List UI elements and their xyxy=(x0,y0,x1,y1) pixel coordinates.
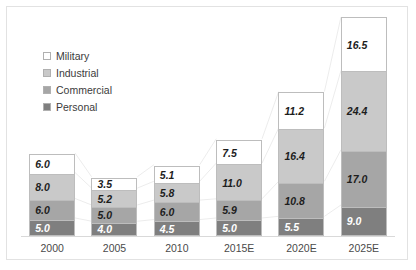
bar-segment-industrial[interactable]: 8.0 xyxy=(29,174,75,200)
bar-segment-value-label: 7.5 xyxy=(217,148,237,158)
x-axis-line xyxy=(21,236,395,237)
bar-segment-commercial[interactable]: 10.8 xyxy=(278,183,324,218)
legend-swatch-personal-icon xyxy=(43,103,51,111)
x-tick-2005: 2005 xyxy=(83,240,145,260)
legend-swatch-industrial-icon xyxy=(43,69,51,77)
bar-segment-industrial[interactable]: 11.0 xyxy=(216,164,262,200)
bar-segment-value-label: 5.9 xyxy=(217,205,237,215)
x-tick-2000: 2000 xyxy=(21,240,83,260)
bar-stack: 16.524.417.09.0 xyxy=(341,17,387,236)
bar-segment-value-label: 6.0 xyxy=(155,207,175,217)
bar-segment-value-label: 24.4 xyxy=(342,106,367,116)
bar-segment-value-label: 6.0 xyxy=(30,205,50,215)
bar-segment-military[interactable]: 16.5 xyxy=(341,17,387,71)
legend-item-military[interactable]: Military xyxy=(43,51,112,61)
bar-segment-value-label: 5.0 xyxy=(92,210,112,220)
bar-segment-personal[interactable]: 4.0 xyxy=(91,223,137,236)
bar-segment-industrial[interactable]: 5.2 xyxy=(91,190,137,207)
bar-segment-commercial[interactable]: 6.0 xyxy=(154,202,200,222)
bar-column-2020E[interactable]: 11.216.410.85.5 xyxy=(270,17,332,236)
bar-segment-personal[interactable]: 5.0 xyxy=(216,220,262,236)
x-tick-2020E: 2020E xyxy=(270,240,332,260)
bar-column-2010[interactable]: 5.15.86.04.5 xyxy=(146,17,208,236)
bar-segment-value-label: 10.8 xyxy=(279,196,304,206)
bar-segment-value-label: 5.8 xyxy=(155,188,175,198)
bar-column-2025E[interactable]: 16.524.417.09.0 xyxy=(333,17,395,236)
bar-segment-military[interactable]: 7.5 xyxy=(216,140,262,165)
chart-frame: MilitaryIndustrialCommercialPersonal 6.0… xyxy=(6,6,408,260)
legend-item-label: Industrial xyxy=(56,68,99,78)
chart-legend: MilitaryIndustrialCommercialPersonal xyxy=(43,51,112,112)
legend-item-label: Military xyxy=(56,51,89,61)
bar-column-2005[interactable]: 3.55.25.04.0 xyxy=(83,17,145,236)
bar-segment-value-label: 4.0 xyxy=(92,224,112,234)
bar-segment-value-label: 3.5 xyxy=(92,179,112,189)
legend-item-label: Personal xyxy=(56,102,97,112)
legend-item-label: Commercial xyxy=(56,85,112,95)
bar-segment-value-label: 8.0 xyxy=(30,182,50,192)
bar-segment-military[interactable]: 11.2 xyxy=(278,92,324,129)
bar-segment-value-label: 5.2 xyxy=(92,194,112,204)
bar-segment-value-label: 11.0 xyxy=(217,178,242,188)
bar-segment-value-label: 11.2 xyxy=(279,106,304,116)
bar-segment-military[interactable]: 6.0 xyxy=(29,154,75,174)
bar-segment-military[interactable]: 3.5 xyxy=(91,178,137,189)
x-tick-2010: 2010 xyxy=(146,240,208,260)
bar-stack: 6.08.06.05.0 xyxy=(29,154,75,236)
legend-swatch-military-icon xyxy=(43,52,51,60)
bar-segment-value-label: 16.5 xyxy=(342,40,367,50)
bar-segment-value-label: 5.1 xyxy=(155,170,175,180)
bar-stack: 7.511.05.95.0 xyxy=(216,140,262,236)
bar-segment-industrial[interactable]: 24.4 xyxy=(341,71,387,151)
bar-segment-commercial[interactable]: 17.0 xyxy=(341,151,387,207)
bar-segment-commercial[interactable]: 5.0 xyxy=(91,207,137,223)
bar-segment-industrial[interactable]: 5.8 xyxy=(154,183,200,202)
bar-segment-industrial[interactable]: 16.4 xyxy=(278,129,324,183)
bar-segment-value-label: 9.0 xyxy=(342,216,362,226)
legend-item-commercial[interactable]: Commercial xyxy=(43,85,112,95)
bar-segment-personal[interactable]: 9.0 xyxy=(341,207,387,236)
bar-stack: 11.216.410.85.5 xyxy=(278,92,324,236)
bar-segment-commercial[interactable]: 6.0 xyxy=(29,200,75,220)
x-axis-tick-labels: 2000200520102015E2020E2025E xyxy=(21,240,395,260)
x-tick-2025E: 2025E xyxy=(333,240,395,260)
bar-column-2015E[interactable]: 7.511.05.95.0 xyxy=(208,17,270,236)
bar-stack: 5.15.86.04.5 xyxy=(154,166,200,236)
legend-item-personal[interactable]: Personal xyxy=(43,102,112,112)
legend-swatch-commercial-icon xyxy=(43,86,51,94)
plot-area: MilitaryIndustrialCommercialPersonal 6.0… xyxy=(7,7,407,259)
x-tick-2015E: 2015E xyxy=(208,240,270,260)
bar-segment-personal[interactable]: 5.0 xyxy=(29,220,75,236)
bar-segment-value-label: 16.4 xyxy=(279,151,304,161)
bar-segment-value-label: 4.5 xyxy=(155,224,175,234)
legend-item-industrial[interactable]: Industrial xyxy=(43,68,112,78)
bar-stack: 3.55.25.04.0 xyxy=(91,178,137,236)
bar-segment-personal[interactable]: 4.5 xyxy=(154,221,200,236)
bar-segment-value-label: 5.0 xyxy=(217,223,237,233)
bar-segment-value-label: 17.0 xyxy=(342,174,367,184)
bar-segment-personal[interactable]: 5.5 xyxy=(278,218,324,236)
bar-segment-value-label: 5.0 xyxy=(30,223,50,233)
bar-segment-commercial[interactable]: 5.9 xyxy=(216,200,262,219)
bar-segment-value-label: 5.5 xyxy=(279,222,299,232)
bar-segment-military[interactable]: 5.1 xyxy=(154,166,200,183)
bar-segment-value-label: 6.0 xyxy=(30,159,50,169)
